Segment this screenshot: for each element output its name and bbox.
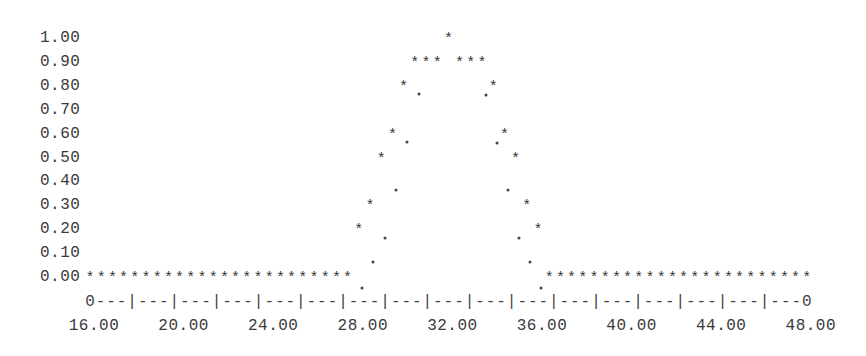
- y-tick-label: 0.10: [40, 245, 88, 261]
- x-axis-char: -: [180, 294, 190, 310]
- data-point-star: *: [690, 271, 699, 286]
- data-point-star: *: [701, 271, 710, 286]
- x-axis-char: -: [728, 294, 738, 310]
- x-axis-char: -: [243, 294, 253, 310]
- x-axis-char: -: [612, 294, 622, 310]
- x-axis-char: -: [264, 294, 274, 310]
- data-point-star: *: [354, 223, 363, 238]
- data-point-star: *: [153, 271, 162, 286]
- x-axis-char: -: [317, 294, 327, 310]
- x-axis-char: -: [370, 294, 380, 310]
- data-point-star: *: [141, 271, 150, 286]
- x-axis-char: -: [644, 294, 654, 310]
- data-point-star: *: [522, 199, 531, 214]
- connector-dot: [540, 287, 543, 290]
- data-point-star: *: [433, 55, 442, 70]
- data-point-star: *: [175, 271, 184, 286]
- data-point-star: *: [220, 271, 229, 286]
- x-axis-char: -: [433, 294, 443, 310]
- x-axis-char: -: [560, 294, 570, 310]
- data-point-star: *: [477, 55, 486, 70]
- connector-dot: [507, 189, 510, 192]
- x-axis-char: -: [528, 294, 538, 310]
- x-tick-mark: |: [507, 294, 517, 310]
- x-axis-char: 0: [85, 294, 95, 310]
- y-tick-label: 0.90: [40, 54, 88, 70]
- connector-dot: [372, 261, 375, 264]
- x-tick-label: 20.00: [158, 318, 209, 334]
- data-point-star: *: [399, 79, 408, 94]
- data-point-star: *: [253, 271, 262, 286]
- x-tick-label: 36.00: [517, 318, 568, 334]
- x-tick-mark: |: [338, 294, 348, 310]
- x-axis-char: -: [159, 294, 169, 310]
- data-point-star: *: [444, 32, 453, 47]
- x-axis-char: -: [275, 294, 285, 310]
- data-point-star: *: [309, 271, 318, 286]
- y-tick-label: 0.00: [40, 269, 88, 285]
- data-point-star: *: [657, 271, 666, 286]
- x-axis-char: -: [475, 294, 485, 310]
- y-tick-label: 0.70: [40, 102, 88, 118]
- y-tick-label: 0.80: [40, 78, 88, 94]
- data-point-star: *: [186, 271, 195, 286]
- data-point-star: *: [645, 271, 654, 286]
- x-axis-char: -: [570, 294, 580, 310]
- x-axis-char: -: [749, 294, 759, 310]
- x-tick-mark: |: [760, 294, 770, 310]
- x-axis-char: -: [222, 294, 232, 310]
- data-point-star: *: [164, 271, 173, 286]
- data-point-star: *: [769, 271, 778, 286]
- data-point-star: *: [545, 271, 554, 286]
- x-axis-char: -: [739, 294, 749, 310]
- x-tick-label: 32.00: [427, 318, 478, 334]
- ascii-chart: 1.000.900.800.700.600.500.400.300.200.10…: [0, 0, 866, 356]
- y-tick-label: 0.50: [40, 150, 88, 166]
- x-axis-char: -: [781, 294, 791, 310]
- x-tick-mark: |: [127, 294, 137, 310]
- x-axis-char: -: [117, 294, 127, 310]
- x-axis-char: -: [285, 294, 295, 310]
- data-point-star: *: [119, 271, 128, 286]
- x-axis-char: -: [233, 294, 243, 310]
- x-tick-mark: |: [380, 294, 390, 310]
- data-point-star: *: [332, 271, 341, 286]
- connector-dot: [518, 237, 521, 240]
- data-point-star: *: [242, 271, 251, 286]
- x-axis-char: -: [96, 294, 106, 310]
- data-point-star: *: [321, 271, 330, 286]
- x-tick-label: 16.00: [69, 318, 120, 334]
- x-tick-label: 24.00: [248, 318, 299, 334]
- data-point-star: *: [489, 79, 498, 94]
- x-tick-label: 40.00: [606, 318, 657, 334]
- x-axis-char: -: [201, 294, 211, 310]
- connector-dot: [496, 142, 499, 145]
- x-axis-char: -: [328, 294, 338, 310]
- x-axis-char: -: [686, 294, 696, 310]
- x-axis-char: -: [391, 294, 401, 310]
- x-tick-label: 28.00: [338, 318, 389, 334]
- x-tick-mark: |: [675, 294, 685, 310]
- x-tick-mark: |: [718, 294, 728, 310]
- x-axis-char: -: [654, 294, 664, 310]
- data-point-star: *: [612, 271, 621, 286]
- data-point-star: *: [623, 271, 632, 286]
- x-axis-char: -: [538, 294, 548, 310]
- data-point-star: *: [388, 127, 397, 142]
- x-axis-char: -: [349, 294, 359, 310]
- x-axis-char: -: [138, 294, 148, 310]
- data-point-star: *: [197, 271, 206, 286]
- y-tick-label: 0.20: [40, 221, 88, 237]
- x-tick-mark: |: [254, 294, 264, 310]
- data-point-star: *: [421, 55, 430, 70]
- x-axis-char: -: [307, 294, 317, 310]
- data-point-star: *: [265, 271, 274, 286]
- data-point-star: *: [791, 271, 800, 286]
- x-axis-char: -: [623, 294, 633, 310]
- data-point-star: *: [410, 55, 419, 70]
- data-point-star: *: [601, 271, 610, 286]
- x-axis-char: -: [412, 294, 422, 310]
- x-axis-char: -: [665, 294, 675, 310]
- x-axis-char: 0: [802, 294, 812, 310]
- data-point-star: *: [97, 271, 106, 286]
